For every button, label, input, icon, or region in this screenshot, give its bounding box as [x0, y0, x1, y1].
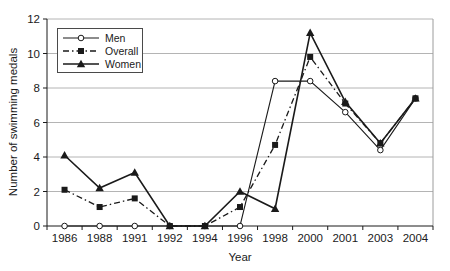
data-point-overall-1996: [237, 204, 243, 210]
data-point-men-1996: [237, 223, 243, 229]
y-tick-label-12: 12: [27, 13, 40, 25]
y-tick-label-10: 10: [27, 48, 40, 60]
data-point-men-2001: [342, 109, 348, 115]
x-tick-label-1996: 1996: [227, 232, 253, 244]
data-point-overall-2003: [377, 140, 383, 146]
legend-item-men: Men: [62, 32, 142, 44]
data-point-men-1991: [132, 223, 138, 229]
data-point-overall-1998: [272, 142, 278, 148]
data-point-overall-2001: [342, 101, 348, 107]
x-tick-label-1991: 1991: [122, 232, 148, 244]
data-point-overall-1994: [202, 223, 208, 229]
x-axis-title: Year: [228, 251, 251, 263]
data-point-men-2000: [307, 78, 313, 84]
x-tick-label-1988: 1988: [87, 232, 113, 244]
x-tick-label-2001: 2001: [332, 232, 358, 244]
data-point-overall-2000: [307, 54, 313, 60]
data-point-men-2003: [378, 147, 384, 153]
x-tick-label-2000: 2000: [297, 232, 323, 244]
data-point-men-1998: [272, 78, 278, 84]
x-tick-label-1998: 1998: [262, 232, 288, 244]
y-tick-label-0: 0: [34, 220, 40, 232]
data-point-overall-1991: [132, 195, 138, 201]
swimming-medals-line-chart: 0246810121986198819911992199419961998200…: [0, 0, 450, 271]
y-tick-label-8: 8: [34, 82, 40, 94]
x-tick-label-2004: 2004: [403, 232, 429, 244]
chart-legend: MenOverallWomen: [57, 28, 143, 73]
legend-marker-circle-open: [62, 32, 100, 44]
legend-item-women: Women: [62, 58, 142, 70]
y-tick-label-2: 2: [34, 186, 40, 198]
legend-label-women: Women: [105, 58, 141, 70]
y-tick-label-6: 6: [34, 117, 40, 129]
legend-label-overall: Overall: [105, 45, 138, 57]
x-tick-label-1994: 1994: [192, 232, 218, 244]
legend-marker-triangle-filled: [62, 58, 100, 70]
x-tick-label-1992: 1992: [157, 232, 183, 244]
data-point-men-1988: [97, 223, 103, 229]
x-tick-label-1986: 1986: [52, 232, 78, 244]
legend-marker-square-filled: [62, 45, 100, 57]
data-point-overall-1986: [62, 187, 68, 193]
legend-item-overall: Overall: [62, 45, 142, 57]
data-point-women-2000: [306, 29, 314, 36]
x-tick-label-2003: 2003: [368, 232, 394, 244]
y-axis-title: Number of swimming medals: [7, 48, 19, 196]
data-point-women-1998: [271, 205, 279, 212]
data-point-men-1986: [62, 223, 68, 229]
data-point-women-1991: [131, 168, 139, 175]
data-point-women-1986: [60, 151, 68, 158]
data-point-overall-1992: [167, 223, 173, 229]
y-tick-label-4: 4: [34, 151, 41, 163]
data-point-overall-2004: [412, 95, 418, 101]
series-line-overall: [65, 57, 416, 226]
legend-label-men: Men: [105, 32, 125, 44]
data-point-overall-1988: [97, 204, 103, 210]
